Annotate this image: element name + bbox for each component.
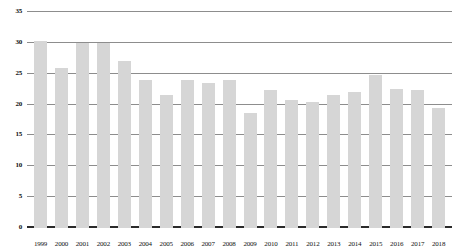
x-tick-slot: 1999 [30, 232, 51, 250]
bar [139, 80, 152, 228]
x-tick-slot: 2006 [177, 232, 198, 250]
bar-slot [302, 12, 323, 228]
x-tick-slot: 2011 [281, 232, 302, 250]
x-tick-slot: 2014 [344, 232, 365, 250]
x-tick-label: 2005 [160, 240, 173, 248]
x-tick-label: 2007 [202, 240, 215, 248]
y-tick-label: 25 [0, 70, 22, 77]
plot-area [27, 12, 452, 228]
bar [97, 43, 110, 228]
x-tick-label: 2010 [264, 240, 277, 248]
x-tick-label: 2017 [411, 240, 424, 248]
x-tick-label: 2013 [327, 240, 340, 248]
y-tick-label: 35 [0, 8, 22, 15]
x-tick-label: 2003 [118, 240, 131, 248]
x-tick-label: 1999 [34, 240, 47, 248]
x-tick-slot: 2007 [198, 232, 219, 250]
x-tick-slot: 2005 [156, 232, 177, 250]
x-tick-label: 2004 [139, 240, 152, 248]
x-tick-label: 2006 [181, 240, 194, 248]
x-tick-slot: 2016 [386, 232, 407, 250]
bar-slot [135, 12, 156, 228]
x-tick-label: 2009 [243, 240, 256, 248]
x-tick-slot: 2002 [93, 232, 114, 250]
x-tick-slot: 2008 [219, 232, 240, 250]
x-tick-slot: 2015 [365, 232, 386, 250]
bar [264, 90, 277, 228]
bar [181, 80, 194, 228]
bar-chart: 05101520253035 1999200020012002200320042… [0, 0, 455, 250]
bar [34, 41, 47, 228]
bar-slot [365, 12, 386, 228]
bar-slot [219, 12, 240, 228]
bar-slot [30, 12, 51, 228]
x-tick-slot: 2012 [302, 232, 323, 250]
x-axis: 1999200020012002200320042005200620072008… [27, 232, 452, 250]
bar-slot [177, 12, 198, 228]
x-tick-slot: 2017 [407, 232, 428, 250]
bar-slot [344, 12, 365, 228]
bar [348, 92, 361, 228]
bar-slot [93, 12, 114, 228]
bar-slot [240, 12, 261, 228]
x-tick-slot: 2009 [240, 232, 261, 250]
x-tick-label: 2008 [222, 240, 235, 248]
bar [55, 68, 68, 228]
x-tick-slot: 2000 [51, 232, 72, 250]
bar [285, 100, 298, 228]
bar-slot [407, 12, 428, 228]
bar [306, 102, 319, 229]
bar [327, 95, 340, 228]
x-tick-label: 2002 [97, 240, 110, 248]
bar [244, 113, 257, 228]
bar [202, 83, 215, 228]
y-tick-label: 30 [0, 39, 22, 46]
x-tick-label: 2015 [369, 240, 382, 248]
x-tick-label: 2016 [390, 240, 403, 248]
x-tick-label: 2001 [76, 240, 89, 248]
y-tick-label: 20 [0, 101, 22, 108]
y-tick-label: 5 [0, 193, 22, 200]
x-tick-slot: 2013 [323, 232, 344, 250]
x-tick-slot: 2004 [135, 232, 156, 250]
x-tick-label: 2011 [285, 240, 298, 248]
bar [223, 80, 236, 228]
bar [432, 108, 445, 228]
bar-slot [51, 12, 72, 228]
x-tick-label: 2014 [348, 240, 361, 248]
bar-slot [281, 12, 302, 228]
y-tick-label: 10 [0, 162, 22, 169]
y-tick-label: 0 [0, 224, 22, 231]
bar [390, 89, 403, 228]
x-tick-label: 2018 [432, 240, 445, 248]
x-tick-label: 2012 [306, 240, 319, 248]
bar [118, 61, 131, 228]
y-axis: 05101520253035 [0, 12, 24, 228]
bar [160, 95, 173, 228]
x-tick-slot: 2001 [72, 232, 93, 250]
bar-slot [323, 12, 344, 228]
bar [411, 90, 424, 228]
bar-slot [114, 12, 135, 228]
bar [369, 75, 382, 228]
bar-slot [72, 12, 93, 228]
bar-slot [156, 12, 177, 228]
bar-slot [198, 12, 219, 228]
bar-slot [260, 12, 281, 228]
x-tick-slot: 2010 [260, 232, 281, 250]
bar-slot [428, 12, 449, 228]
x-tick-slot: 2003 [114, 232, 135, 250]
bar-series [27, 12, 452, 228]
x-tick-label: 2000 [55, 240, 68, 248]
y-tick-label: 15 [0, 131, 22, 138]
x-tick-slot: 2018 [428, 232, 449, 250]
bar-slot [386, 12, 407, 228]
bar [76, 43, 89, 228]
